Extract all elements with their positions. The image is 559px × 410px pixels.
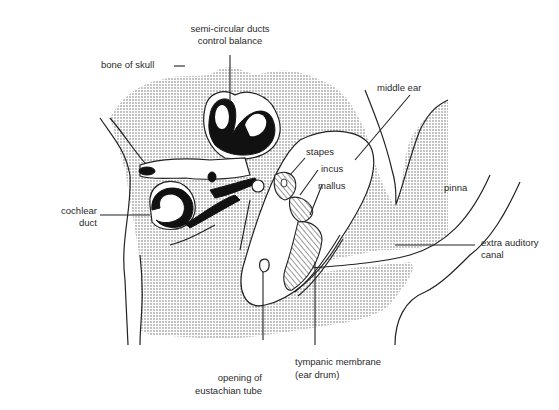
- label-mallus: mallus: [318, 180, 346, 191]
- ear-anatomy-diagram: semi-circular ducts control balance bone…: [0, 0, 559, 410]
- label-tympanic-membrane-line2: (ear drum): [295, 369, 339, 380]
- label-cochlear-duct-line2: duct: [79, 217, 97, 228]
- label-stapes: stapes: [306, 146, 334, 157]
- label-eustachian-tube-line1: opening of: [218, 372, 263, 383]
- label-middle-ear: middle ear: [377, 82, 421, 93]
- label-semicircular-ducts-line2: control balance: [198, 35, 262, 46]
- eustachian-opening: [260, 259, 270, 272]
- semicircular-ducts: [204, 92, 280, 159]
- label-semicircular-ducts-line1: semi-circular ducts: [190, 23, 269, 34]
- label-extra-auditory-canal-line1: extra auditory: [481, 237, 539, 248]
- label-extra-auditory-canal-line2: canal: [481, 249, 504, 260]
- label-cochlear-duct-line1: cochlear: [61, 205, 97, 216]
- label-pinna: pinna: [444, 182, 468, 193]
- label-tympanic-membrane-line1: tympanic membrane: [295, 356, 381, 367]
- label-eustachian-tube-line2: eustachian tube: [195, 385, 262, 396]
- label-incus: incus: [321, 163, 343, 174]
- label-bone-of-skull: bone of skull: [101, 59, 154, 70]
